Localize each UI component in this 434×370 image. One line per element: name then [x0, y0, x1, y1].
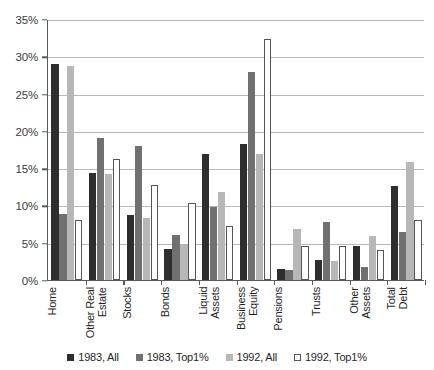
bar — [127, 215, 134, 280]
bar — [164, 249, 171, 280]
bar — [293, 229, 300, 280]
y-tick-label: 15% — [16, 163, 38, 175]
bar-group — [161, 20, 199, 280]
x-tick-mark — [312, 280, 313, 285]
y-tick-label: 5% — [22, 238, 38, 250]
bar-group — [312, 20, 350, 280]
legend-item: 1983, Top1% — [136, 351, 209, 363]
bar-group — [274, 20, 312, 280]
x-tick-mark — [387, 280, 388, 285]
bar — [339, 246, 346, 280]
x-tick-label: Bonds — [160, 287, 198, 317]
bar — [331, 261, 338, 280]
x-tick-label: Other Real Estate — [85, 287, 123, 338]
x-tick-label: Business Equity — [236, 287, 274, 330]
bar — [315, 260, 322, 280]
x-axis: HomeOther Real EstateStocksBondsLiquid A… — [47, 287, 424, 345]
bar — [143, 218, 150, 280]
y-tick-label: 10% — [16, 200, 38, 212]
legend-swatch-icon — [67, 354, 74, 361]
bar — [105, 174, 112, 280]
x-tick-label: Liquid Assets — [198, 287, 236, 319]
bar-group — [350, 20, 388, 280]
bar — [172, 235, 179, 280]
bar — [248, 72, 255, 280]
x-tick-mark — [350, 280, 351, 285]
bar — [256, 154, 263, 280]
bar — [399, 232, 406, 280]
bar-group — [387, 20, 425, 280]
legend-label: 1983, All — [78, 351, 118, 363]
x-tick-mark — [274, 280, 275, 285]
y-axis: 0%5%10%15%20%25%30%35% — [0, 0, 47, 301]
x-tick-label: Home — [47, 287, 85, 316]
x-tick-label: Trusts — [311, 287, 349, 316]
x-tick-mark — [425, 280, 426, 285]
bar-group — [237, 20, 275, 280]
y-tick-label: 35% — [16, 14, 38, 26]
legend-label: 1992, All — [237, 351, 277, 363]
bar — [135, 146, 142, 280]
bar — [202, 154, 209, 280]
bar — [226, 226, 233, 280]
legend-item: 1992, All — [226, 351, 277, 363]
x-tick-mark — [123, 280, 124, 285]
x-tick-label: Pensions — [273, 287, 311, 331]
bar — [75, 220, 82, 280]
y-tick-label: 0% — [22, 275, 38, 287]
bar — [377, 250, 384, 280]
bar-group — [199, 20, 237, 280]
bar — [113, 159, 120, 280]
legend-item: 1983, All — [67, 351, 118, 363]
bar-group — [48, 20, 86, 280]
bar — [391, 186, 398, 280]
x-tick-label: Stocks — [122, 287, 160, 319]
bar — [353, 246, 360, 280]
bar — [218, 192, 225, 280]
bar — [406, 162, 413, 280]
bar — [277, 269, 284, 280]
bar — [51, 64, 58, 280]
bar — [210, 207, 217, 280]
x-tick-mark — [86, 280, 87, 285]
x-tick-mark — [161, 280, 162, 285]
legend-label: 1983, Top1% — [147, 351, 209, 363]
bar — [323, 222, 330, 280]
legend-swatch-icon — [226, 354, 233, 361]
bar — [151, 185, 158, 280]
x-tick-label: Other Assets — [349, 287, 387, 319]
bar-group — [86, 20, 124, 280]
legend-swatch-icon — [136, 354, 143, 361]
bar — [369, 236, 376, 280]
bar — [361, 267, 368, 280]
legend-item: 1992, Top1% — [294, 351, 367, 363]
bar — [414, 220, 421, 280]
bar — [301, 246, 308, 280]
legend-label: 1992, Top1% — [305, 351, 367, 363]
bar — [89, 173, 96, 280]
bar — [240, 144, 247, 280]
bar — [264, 39, 271, 280]
bar — [285, 270, 292, 280]
plot-area — [47, 20, 424, 281]
y-tick-label: 20% — [16, 126, 38, 138]
x-tick-mark — [199, 280, 200, 285]
legend-swatch-icon — [294, 354, 301, 361]
bar — [97, 138, 104, 280]
bar-chart: 0%5%10%15%20%25%30%35% HomeOther Real Es… — [0, 0, 434, 370]
x-tick-label: Total Debt — [386, 287, 424, 309]
bar — [188, 203, 195, 280]
bar — [180, 244, 187, 280]
bar — [67, 66, 74, 280]
bar-group — [123, 20, 161, 280]
y-tick-label: 30% — [16, 51, 38, 63]
bar — [59, 214, 66, 280]
chart-legend: 1983, All1983, Top1%1992, All1992, Top1% — [0, 348, 434, 366]
x-tick-mark — [237, 280, 238, 285]
y-tick-label: 25% — [16, 89, 38, 101]
